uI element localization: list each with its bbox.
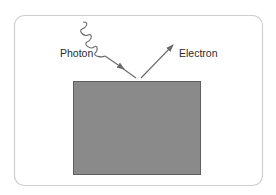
photoelectric-diagram: Photon Electron [0, 0, 276, 195]
metal-plate [74, 82, 201, 175]
electron-label: Electron [179, 47, 218, 59]
photon-label: Photon [60, 47, 93, 59]
